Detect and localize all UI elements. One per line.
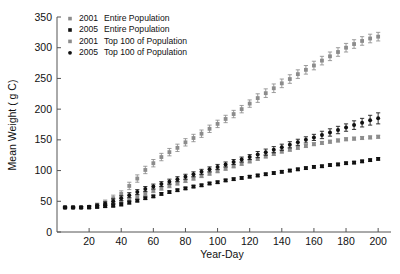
- data-point: [296, 70, 300, 79]
- marker: [352, 123, 356, 127]
- legend-entry[interactable]: 2005Top 100 of Population: [68, 47, 187, 57]
- marker: [312, 165, 316, 169]
- marker: [159, 155, 163, 159]
- x-tick-label: 180: [337, 235, 355, 247]
- marker: [216, 122, 220, 126]
- legend-entry[interactable]: 2005Entire Population: [68, 24, 169, 34]
- data-point: [135, 199, 139, 203]
- marker: [240, 107, 244, 111]
- marker: [135, 177, 139, 181]
- marker: [304, 144, 308, 148]
- marker: [328, 54, 332, 58]
- legend-entry[interactable]: 2001Top 100 of Population: [68, 36, 187, 46]
- marker: [328, 140, 332, 144]
- data-point: [376, 135, 380, 139]
- marker: [224, 117, 228, 121]
- marker: [216, 180, 220, 184]
- data-point: [344, 137, 348, 141]
- data-point: [368, 136, 372, 140]
- data-point: [143, 187, 147, 192]
- data-point: [127, 201, 131, 205]
- marker: [264, 150, 268, 154]
- data-point: [191, 177, 195, 181]
- marker: [200, 170, 204, 174]
- marker: [184, 179, 188, 183]
- data-point: [151, 194, 155, 198]
- data-point: [207, 167, 211, 172]
- marker: [127, 193, 131, 197]
- marker: [288, 143, 292, 147]
- marker: [248, 102, 252, 106]
- y-tick-label: 150: [34, 133, 52, 145]
- data-point: [256, 94, 260, 103]
- marker: [135, 195, 139, 199]
- marker: [184, 186, 188, 190]
- marker: [232, 160, 236, 164]
- data-point: [207, 125, 211, 132]
- legend-marker: [68, 28, 72, 32]
- marker: [336, 128, 340, 132]
- data-point: [240, 176, 244, 180]
- data-point: [119, 202, 123, 206]
- marker: [240, 158, 244, 162]
- data-point: [199, 183, 203, 187]
- marker: [296, 167, 300, 171]
- data-point: [207, 172, 211, 176]
- data-point: [360, 136, 364, 140]
- data-point: [135, 190, 139, 195]
- data-point: [320, 164, 324, 168]
- legend-entry[interactable]: 2001Entire Population: [68, 13, 169, 23]
- data-point: [288, 142, 292, 148]
- marker: [320, 133, 324, 137]
- marker: [127, 201, 131, 205]
- x-tick-label: 200: [369, 235, 387, 247]
- marker: [264, 91, 268, 95]
- marker: [119, 196, 123, 200]
- data-point: [264, 89, 268, 98]
- data-point: [199, 130, 203, 137]
- marker: [208, 167, 212, 171]
- data-point: [272, 171, 276, 175]
- marker: [336, 163, 340, 167]
- marker: [264, 172, 268, 176]
- marker: [192, 185, 196, 189]
- marker: [272, 148, 276, 152]
- data-point: [336, 163, 340, 167]
- marker: [216, 169, 220, 173]
- marker: [200, 132, 204, 136]
- data-point: [296, 167, 300, 171]
- marker: [192, 136, 196, 140]
- marker: [304, 166, 308, 170]
- data-point: [336, 139, 340, 143]
- data-point: [224, 167, 228, 171]
- marker: [200, 183, 204, 187]
- data-point: [296, 146, 300, 150]
- marker: [71, 205, 75, 209]
- y-tick-label: 250: [34, 72, 52, 84]
- data-point: [344, 161, 348, 165]
- marker: [183, 175, 187, 179]
- marker: [151, 189, 155, 193]
- data-point: [360, 118, 364, 127]
- data-point: [183, 186, 187, 190]
- marker: [344, 161, 348, 165]
- marker: [280, 145, 284, 149]
- data-point: [167, 190, 171, 194]
- marker: [376, 157, 380, 161]
- data-point: [280, 170, 284, 174]
- series-3: [63, 113, 380, 210]
- marker: [280, 170, 284, 174]
- marker: [344, 126, 348, 130]
- data-point: [199, 174, 203, 178]
- marker: [312, 135, 316, 139]
- x-tick-label: 20: [83, 235, 95, 247]
- data-point: [328, 52, 332, 61]
- marker: [175, 177, 179, 181]
- data-point: [159, 192, 163, 196]
- marker: [232, 164, 236, 168]
- data-point: [368, 115, 372, 125]
- data-point: [248, 155, 252, 160]
- marker: [103, 202, 107, 206]
- marker: [312, 64, 316, 68]
- marker: [63, 205, 67, 209]
